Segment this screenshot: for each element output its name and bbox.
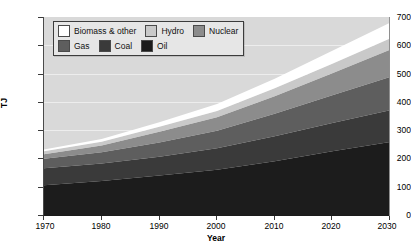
chart-legend: Biomass & other Hydro Nuclear Gas Coal — [53, 21, 244, 56]
legend-row: Biomass & other Hydro Nuclear — [58, 25, 238, 37]
legend-swatch-icon — [99, 40, 111, 52]
legend-swatch-icon — [58, 40, 70, 52]
x-tick-mark — [331, 216, 332, 220]
x-tick-mark — [216, 216, 217, 220]
x-tick-label: 1970 — [25, 221, 65, 231]
y-axis-label: TJ — [0, 98, 9, 108]
x-tick-label: 2010 — [254, 221, 294, 231]
x-tick-mark — [274, 216, 275, 220]
chart-figure: 700 600 500 400 300 200 100 0 TJ — [0, 0, 411, 252]
x-tick-label: 2020 — [311, 221, 351, 231]
legend-swatch-icon — [145, 25, 157, 37]
legend-item-oil[interactable]: Oil — [141, 40, 167, 52]
x-tick-mark — [389, 216, 390, 220]
legend-label: Oil — [157, 41, 167, 51]
x-tick-mark — [101, 216, 102, 220]
legend-item-gas[interactable]: Gas — [58, 40, 90, 52]
x-tick-label: 2000 — [196, 221, 236, 231]
legend-item-hydro[interactable]: Hydro — [145, 25, 184, 37]
legend-label: Coal — [115, 41, 132, 51]
legend-label: Nuclear — [209, 26, 238, 36]
x-tick-label: 1990 — [139, 221, 179, 231]
x-tick-mark — [159, 216, 160, 220]
legend-label: Gas — [74, 41, 90, 51]
legend-swatch-icon — [193, 25, 205, 37]
legend-item-nuclear[interactable]: Nuclear — [193, 25, 238, 37]
legend-item-biomass-other[interactable]: Biomass & other — [58, 25, 136, 37]
x-tick-label: 2030 — [367, 221, 407, 231]
legend-item-coal[interactable]: Coal — [99, 40, 132, 52]
legend-swatch-icon — [141, 40, 153, 52]
legend-swatch-icon — [58, 25, 70, 37]
legend-row: Gas Coal Oil — [58, 40, 238, 52]
legend-label: Biomass & other — [74, 26, 136, 36]
x-tick-mark — [43, 216, 44, 220]
plot-right-border — [389, 17, 390, 216]
x-tick-label: 1980 — [81, 221, 121, 231]
x-axis-label: Year — [43, 233, 389, 243]
legend-label: Hydro — [161, 26, 184, 36]
